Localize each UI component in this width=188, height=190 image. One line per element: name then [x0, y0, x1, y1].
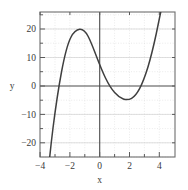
y-tick-label-10: 10: [27, 53, 37, 63]
cubic-function-plot: 20 10 0 −10 −20 −4 −2 0 2 4 y x: [0, 0, 188, 190]
y-tick-label-0: 0: [31, 81, 36, 91]
x-tick-label-2: 2: [127, 161, 132, 171]
chart-figure: 20 10 0 −10 −20 −4 −2 0 2 4 y x: [0, 0, 188, 190]
y-tick-label-20: 20: [27, 24, 37, 34]
x-tick-label-neg2: −2: [65, 161, 75, 171]
x-axis-title: x: [97, 175, 102, 185]
x-tick-label-4: 4: [157, 161, 162, 171]
plot-background: [40, 12, 175, 157]
x-tick-label-0: 0: [97, 161, 102, 171]
y-axis-title: y: [10, 81, 15, 91]
x-tick-label-neg4: −4: [35, 161, 45, 171]
y-tick-label-neg20: −20: [21, 138, 36, 148]
y-tick-label-neg10: −10: [21, 110, 36, 120]
